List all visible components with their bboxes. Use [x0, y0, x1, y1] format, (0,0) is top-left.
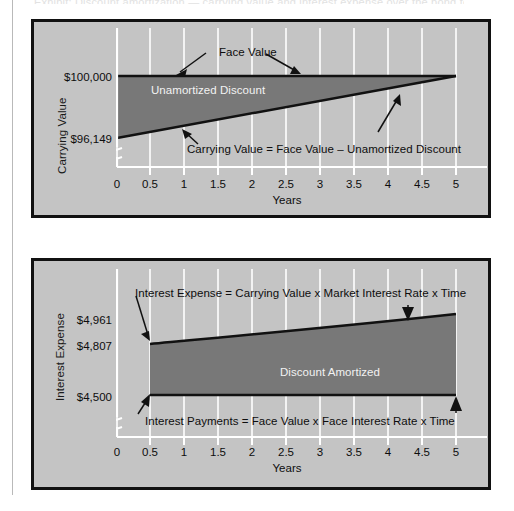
x-tick-4-5: 4.5: [414, 446, 430, 458]
y-tick-4500: $4,500: [34, 391, 112, 403]
x-tick-0-5: 0.5: [142, 178, 158, 190]
x-tick-4-5: 4.5: [414, 178, 430, 190]
x-tick-1-5: 1.5: [210, 446, 226, 458]
x-axis-ticks-carrying-value: 0 0.5 1 1.5 2 2.5 3 3.5 4 4.5 5: [116, 178, 488, 194]
y-axis-label-interest-expense: Interest Expense: [54, 313, 66, 401]
x-tick-0: 0: [114, 446, 120, 458]
annotation-face-value: Face Value: [219, 46, 277, 58]
annotation-leader-interest-payments-left: [138, 394, 150, 414]
x-axis-ticks-interest-expense: 0 0.5 1 1.5 2 2.5 3 3.5 4 4.5 5: [116, 446, 488, 462]
x-tick-4: 4: [385, 446, 391, 458]
x-tick-5: 5: [453, 446, 459, 458]
y-tick-100000: $100,000: [34, 71, 112, 83]
annotation-leader-interest-expense-left: [136, 296, 150, 341]
chart-panel-carrying-value: Carrying Value $100,000 $96,149: [31, 19, 491, 218]
annotation-unamortized-discount: Unamortized Discount: [151, 84, 265, 96]
x-tick-0-5: 0.5: [142, 446, 158, 458]
x-tick-3: 3: [317, 446, 323, 458]
y-tick-96149: $96,149: [34, 133, 112, 145]
annotation-leader-interest-payments-right: [450, 396, 462, 413]
annotation-leader-unamortized-pointer: [378, 94, 401, 132]
chart-panel-interest-expense: Interest Expense $4,961 $4,807 $4,500: [31, 258, 491, 490]
plot-area-carrying-value: [116, 28, 488, 188]
y-tick-4961: $4,961: [34, 314, 112, 326]
annotation-discount-amortized: Discount Amortized: [280, 366, 380, 378]
annotation-interest-payments-formula: Interest Payments = Face Value x Face In…: [145, 415, 455, 427]
y-tick-4807: $4,807: [34, 340, 112, 352]
region-discount-amortized: [150, 314, 456, 395]
x-axis-label-carrying-value: Years: [273, 194, 302, 206]
x-axis-label-interest-expense: Years: [273, 462, 302, 474]
x-tick-1-5: 1.5: [210, 178, 226, 190]
x-tick-4: 4: [385, 178, 391, 190]
page-gutter-rule: [12, 0, 13, 495]
cut-off-caption: Exhibit: Discount amortization — carryin…: [34, 0, 464, 4]
x-tick-2-5: 2.5: [278, 446, 294, 458]
x-tick-2: 2: [249, 446, 255, 458]
x-tick-3-5: 3.5: [346, 446, 362, 458]
annotation-interest-expense-formula: Interest Expense = Carrying Value x Mark…: [135, 287, 466, 299]
annotation-carrying-value-formula: Carrying Value = Face Value – Unamortize…: [187, 143, 461, 155]
x-tick-2: 2: [249, 178, 255, 190]
x-tick-3: 3: [317, 178, 323, 190]
x-tick-5: 5: [453, 178, 459, 190]
x-tick-2-5: 2.5: [278, 178, 294, 190]
x-tick-3-5: 3.5: [346, 178, 362, 190]
x-tick-1: 1: [181, 178, 187, 190]
annotation-leader-face-value-left: [176, 53, 206, 77]
x-tick-1: 1: [181, 446, 187, 458]
x-tick-0: 0: [114, 178, 120, 190]
